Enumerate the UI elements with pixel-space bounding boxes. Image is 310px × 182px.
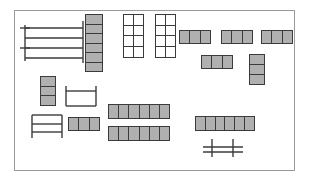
desk-cell <box>159 127 169 140</box>
desk-cell <box>41 86 55 96</box>
desk-cell <box>41 77 55 86</box>
desk-cell <box>159 105 169 118</box>
desk-cell <box>222 56 232 68</box>
desk-cell <box>250 55 264 64</box>
u-table <box>65 85 97 107</box>
grid-cell <box>156 15 166 26</box>
desk-cell <box>86 52 102 62</box>
grid-cell <box>156 47 166 58</box>
desk-cell <box>86 33 102 43</box>
floor-plan-frame <box>14 10 295 171</box>
desk-cell <box>78 118 88 130</box>
desk-cell <box>231 31 241 43</box>
desk-cell <box>250 64 264 74</box>
desk-column-left <box>85 14 103 72</box>
grid-cell <box>124 36 134 47</box>
grid-cell <box>134 15 144 26</box>
desk-cell <box>86 62 102 72</box>
desk-row-mid-right <box>201 55 233 69</box>
desk-cell <box>224 117 234 130</box>
grid-cell <box>124 47 134 58</box>
desk-cell <box>149 105 159 118</box>
desk-cell <box>128 105 138 118</box>
desk-cell <box>211 56 221 68</box>
desk-row-top-3 <box>261 30 293 44</box>
desk-cell <box>86 24 102 34</box>
desk-cell <box>109 105 118 118</box>
desk-cell <box>149 127 159 140</box>
desk-cell <box>196 117 205 130</box>
grid-cell <box>166 26 176 37</box>
desk-cell <box>118 105 128 118</box>
desk-cell <box>205 117 215 130</box>
grid-cell <box>166 47 176 58</box>
floor-plan-canvas <box>15 11 294 170</box>
desk-cell <box>86 43 102 53</box>
desk-cell <box>180 31 189 43</box>
grid-cell <box>134 36 144 47</box>
desk-cell <box>242 31 252 43</box>
grid-cell <box>124 15 134 26</box>
grid-cell <box>134 47 144 58</box>
desk-cell <box>215 117 225 130</box>
desk-cell <box>118 127 128 140</box>
desk-row-mid-left <box>68 117 100 131</box>
grid-cell <box>156 26 166 37</box>
grid-cell <box>166 15 176 26</box>
desk-cell <box>139 105 149 118</box>
open-grid-b <box>155 14 176 58</box>
desk-cell <box>271 31 281 43</box>
desk-cell <box>234 117 244 130</box>
desk-column-mid-left <box>40 76 56 106</box>
grid-cell <box>124 26 134 37</box>
desk-cell <box>89 118 99 130</box>
desk-cell <box>86 15 102 24</box>
desk-cell <box>139 127 149 140</box>
desk-cell <box>69 118 78 130</box>
desk-column-right <box>249 54 265 85</box>
desk-cell <box>128 127 138 140</box>
grid-cell <box>166 36 176 47</box>
desk-cell <box>244 117 254 130</box>
grid-cell <box>156 36 166 47</box>
bench-bottom <box>203 139 243 157</box>
ladder-shelf <box>31 114 63 139</box>
desk-cell <box>202 56 211 68</box>
open-grid-a <box>123 14 144 58</box>
desk-cell <box>189 31 199 43</box>
desk-cell <box>200 31 210 43</box>
desk-cell <box>109 127 118 140</box>
grid-cell <box>134 26 144 37</box>
desk-row-long-2 <box>108 126 170 141</box>
desk-cell <box>222 31 231 43</box>
desk-row-long-1 <box>108 104 170 119</box>
screenshot-root <box>0 0 310 182</box>
desk-cell <box>282 31 292 43</box>
desk-cell <box>262 31 271 43</box>
desk-cell <box>250 74 264 84</box>
desk-cell <box>41 95 55 105</box>
desk-row-long-3 <box>195 116 255 131</box>
comb-rack-top-left <box>19 21 85 65</box>
desk-row-top-1 <box>179 30 211 44</box>
desk-row-top-2 <box>221 30 253 44</box>
